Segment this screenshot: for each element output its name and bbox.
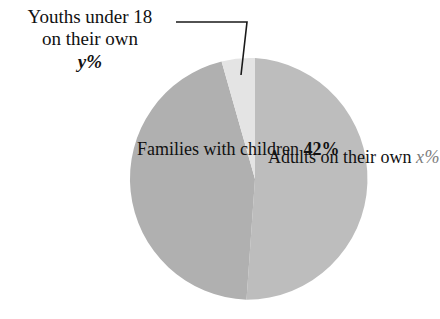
adults-value-x-percent: x% (416, 147, 440, 167)
families-label-line-2: with (204, 139, 236, 159)
slice-label-adults-on-their-own: Adults on their own x% (268, 147, 380, 168)
adults-label-line-1: Adults on (268, 147, 339, 167)
slice-label-families-with-children: Families with children 42% (137, 139, 245, 160)
callout-value-y-percent: y% (6, 51, 174, 73)
callout-label-youths-under-18: Youths under 18 on their own y% (6, 6, 174, 73)
adults-label-line-2: their own (343, 147, 411, 167)
callout-label-line-1: Youths under 18 (6, 6, 174, 28)
families-label-line-1: Families (137, 139, 199, 159)
pie-slice-adults-on-their-own[interactable] (247, 58, 368, 300)
callout-label-line-2: on their own (6, 28, 174, 50)
